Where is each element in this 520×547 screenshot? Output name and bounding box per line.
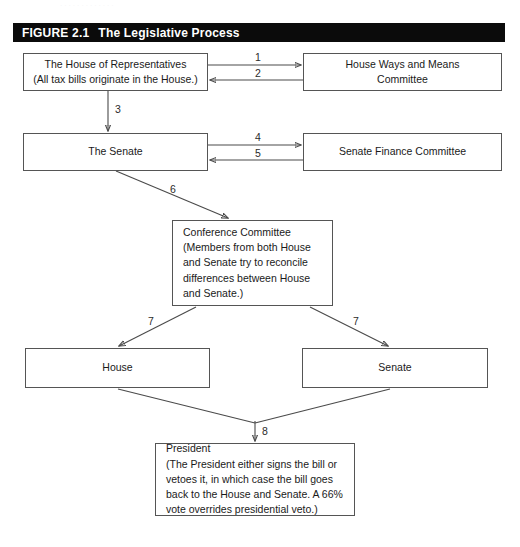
node-house-ways-and-means-committee: House Ways and Means Committee [303,53,502,91]
edge-label-8: 8 [262,426,268,437]
node-senate-finance-committee: Senate Finance Committee [303,133,502,171]
edge-7b-line [310,307,388,346]
edge-label-4: 4 [255,132,261,143]
node-house-of-representatives-label: The House of Representatives (All tax bi… [27,57,204,87]
edge-label-6: 6 [170,184,176,195]
edge-label-5: 5 [255,148,261,159]
node-senate-finance-committee-label: Senate Finance Committee [333,144,472,159]
node-conference-committee-label: Conference Committee (Members from both … [173,225,311,301]
node-conference-committee: Conference Committee (Members from both … [172,220,333,306]
node-the-senate-label: The Senate [82,144,148,159]
figure-number: FIGURE 2.1 [22,26,89,40]
figure-header-bar: FIGURE 2.1 The Legislative Process [13,23,505,42]
node-president-label: President (The President either signs th… [156,441,343,517]
edge-7a-line [119,307,196,346]
edge-label-3: 3 [115,104,121,115]
figure-canvas: · · · · · · · · · · · · · FIGURE 2.1 The… [0,0,520,547]
edge-8-join-right [255,389,390,423]
node-house-label: House [96,360,138,375]
node-senate-label: Senate [372,360,417,375]
figure-title: The Legislative Process [98,26,239,40]
node-president: President (The President either signs th… [155,443,355,516]
node-house-of-representatives: The House of Representatives (All tax bi… [23,53,208,91]
scan-artifact: · · · · · · · · · · · · · [60,2,500,12]
node-senate: Senate [302,348,488,388]
node-house: House [25,348,210,388]
node-the-senate: The Senate [23,133,208,171]
edge-label-7b: 7 [353,316,359,327]
edge-label-2: 2 [255,68,261,79]
node-house-ways-and-means-committee-label: House Ways and Means Committee [340,57,466,87]
edge-label-1: 1 [255,52,261,63]
edge-label-7a: 7 [148,316,154,327]
edge-8-join-left [118,389,255,423]
